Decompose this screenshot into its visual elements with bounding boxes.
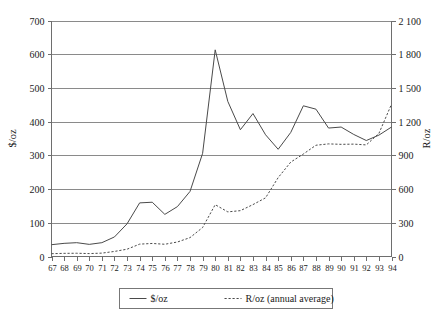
x-axis-tick-label: 80 xyxy=(211,263,220,273)
x-axis-tick-label: 70 xyxy=(85,263,94,273)
y2-axis-tick-label: 1 800 xyxy=(399,49,422,60)
x-axis-tick-label: 67 xyxy=(48,263,57,273)
y-axis-tick-labels: 0100200300400500600700 xyxy=(30,16,45,263)
y2-axis-tick-labels: 03006009001 2001 5001 8002 100 xyxy=(399,16,422,263)
y2-axis-tick-label: 300 xyxy=(399,218,414,229)
y2-axis-tick-label: 1 500 xyxy=(399,83,422,94)
line-chart: 0100200300400500600700 03006009001 2001 … xyxy=(0,0,445,317)
x-axis-tick-label: 84 xyxy=(262,263,271,273)
x-axis-tick-label: 77 xyxy=(173,263,182,273)
chart-container: 0100200300400500600700 03006009001 2001 … xyxy=(0,0,445,317)
x-axis-tick-label: 72 xyxy=(110,263,119,273)
x-axis-tick-label: 73 xyxy=(123,263,132,273)
x-axis-tick-label: 79 xyxy=(199,263,208,273)
x-axis-tick-label: 83 xyxy=(249,263,258,273)
x-axis-tick-label: 75 xyxy=(148,263,157,273)
x-axis-tick-label: 74 xyxy=(136,263,145,273)
y2-axis-tick-label: 1 200 xyxy=(399,117,422,128)
gridlines xyxy=(52,22,392,224)
x-axis-tick-label: 71 xyxy=(98,263,107,273)
x-axis-tick-label: 69 xyxy=(73,263,82,273)
axis-titles: $/ozR/oz xyxy=(7,128,432,148)
y-axis-tick-label: 200 xyxy=(30,184,45,195)
x-axis-tick-label: 88 xyxy=(312,263,321,273)
x-axis-tick-label: 82 xyxy=(236,263,245,273)
y-axis-tick-label: 300 xyxy=(30,150,45,161)
axes xyxy=(52,21,392,257)
x-axis-tick-label: 85 xyxy=(274,263,283,273)
x-axis-tick-label: 93 xyxy=(375,263,384,273)
x-axis-tick-label: 87 xyxy=(299,263,308,273)
y2-axis-tick-label: 600 xyxy=(399,184,414,195)
x-axis-tick-label: 89 xyxy=(325,263,334,273)
x-axis-tick-label: 90 xyxy=(337,263,346,273)
series-line-1 xyxy=(52,50,392,245)
y2-axis-tick-label: 0 xyxy=(399,252,404,263)
y-axis-title: $/oz xyxy=(7,129,18,147)
legend-label-1: $/oz xyxy=(151,293,169,304)
x-axis-tick-label: 78 xyxy=(186,263,195,273)
y2-axis-title: R/oz xyxy=(421,128,432,148)
x-axis-tick-label: 91 xyxy=(350,263,359,273)
x-axis-tick-label: 68 xyxy=(60,263,69,273)
axis-ticks xyxy=(48,22,396,261)
x-axis-tick-label: 86 xyxy=(287,263,296,273)
legend-label-2: R/oz (annual average) xyxy=(246,293,334,305)
y-axis-tick-label: 400 xyxy=(30,117,45,128)
y-axis-tick-label: 500 xyxy=(30,83,45,94)
x-axis-tick-label: 94 xyxy=(388,263,397,273)
x-axis-tick-labels: 6768697071727374757677787980818283848586… xyxy=(48,263,397,273)
y-axis-tick-label: 0 xyxy=(40,252,45,263)
y2-axis-tick-label: 2 100 xyxy=(399,16,422,27)
y-axis-tick-label: 700 xyxy=(30,16,45,27)
y2-axis-tick-label: 900 xyxy=(399,150,414,161)
y-axis-tick-label: 600 xyxy=(30,49,45,60)
x-axis-tick-label: 92 xyxy=(362,263,371,273)
x-axis-tick-label: 81 xyxy=(224,263,233,273)
chart-legend: $/ozR/oz (annual average) xyxy=(120,289,334,309)
y-axis-tick-label: 100 xyxy=(30,218,45,229)
x-axis-tick-label: 76 xyxy=(161,263,170,273)
